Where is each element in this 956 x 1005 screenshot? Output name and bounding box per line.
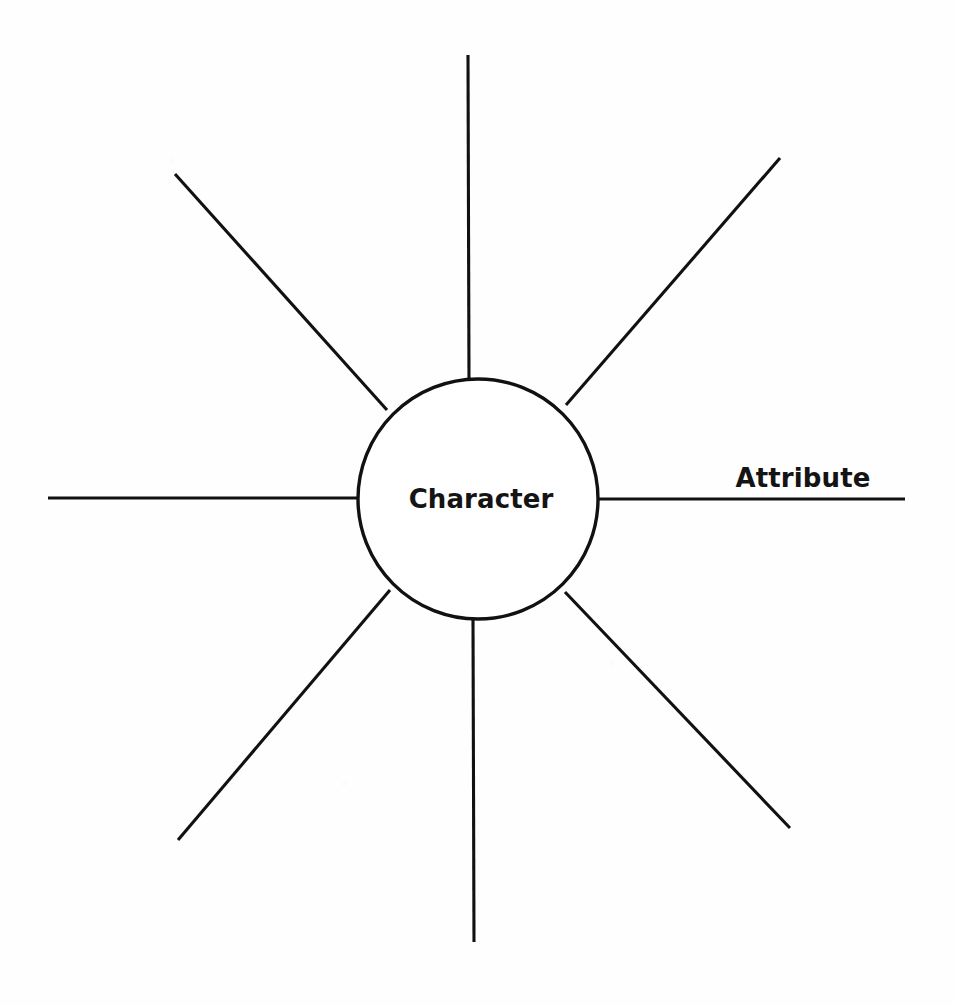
spoke-northeast[interactable] <box>566 158 780 405</box>
spoke-north[interactable] <box>468 55 469 379</box>
spoke-south[interactable] <box>473 620 474 942</box>
character-web-worksheet: Character Attribute <box>0 0 956 1005</box>
spoke-northwest[interactable] <box>175 174 387 410</box>
spoke-southeast[interactable] <box>565 592 790 828</box>
spoke-southwest[interactable] <box>178 590 390 840</box>
character-hub-label: Character <box>409 484 554 514</box>
character-web-diagram: Character Attribute <box>0 0 956 1005</box>
attribute-spoke-label: Attribute <box>736 463 871 493</box>
